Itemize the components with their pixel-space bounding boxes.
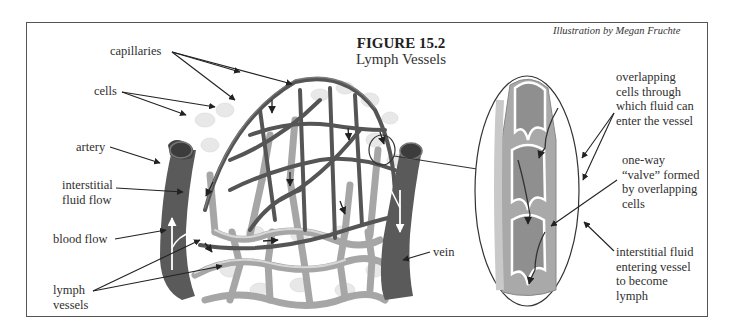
label-lymph-vessels: lymph vessels bbox=[53, 283, 88, 312]
label-blood-flow: blood flow bbox=[53, 232, 108, 247]
inset-valve-detail bbox=[475, 76, 579, 306]
illustration-credit: Illustration by Megan Fruchte bbox=[553, 25, 680, 36]
label-capillaries: capillaries bbox=[110, 44, 161, 59]
label-vein: vein bbox=[433, 245, 455, 260]
label-overlapping-cells: overlapping cells through which fluid ca… bbox=[616, 70, 694, 128]
figure-title: FIGURE 15.2 Lymph Vessels bbox=[336, 35, 466, 68]
label-interstitial-fluid-flow: interstitial fluid flow bbox=[62, 178, 113, 207]
label-artery: artery bbox=[76, 140, 105, 155]
figure-subtitle: Lymph Vessels bbox=[336, 51, 466, 68]
label-one-way-valve: one-way “valve” formed by overlapping ce… bbox=[622, 153, 699, 211]
label-cells: cells bbox=[94, 84, 117, 99]
artery bbox=[160, 140, 196, 300]
label-interstitial-fluid-entering: interstitial fluid entering vessel to be… bbox=[616, 245, 693, 303]
figure-number: FIGURE 15.2 bbox=[336, 35, 466, 51]
